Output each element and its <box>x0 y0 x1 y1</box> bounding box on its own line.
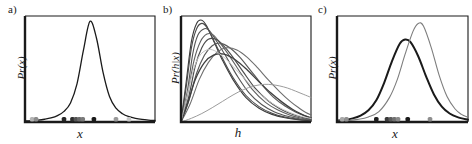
curve-posterior-broad <box>181 84 311 122</box>
panel-c-xlabel: x <box>375 126 415 142</box>
curve-posterior-7 <box>181 48 311 122</box>
curve-posterior-2 <box>181 23 311 122</box>
axis-frame-left-bottom <box>25 16 155 122</box>
data-point-marker <box>396 117 401 122</box>
panel-c-ylabel: Pr(x) <box>326 38 338 98</box>
data-point-marker <box>80 117 85 122</box>
panel-c-label: c) <box>318 4 327 15</box>
data-point-marker <box>340 117 345 122</box>
curve-predictive-dark <box>337 39 468 120</box>
panel-b-ylabel: Pr(h|x) <box>169 38 181 98</box>
panel-b-label: b) <box>163 4 172 15</box>
data-point-marker <box>405 117 410 122</box>
panel-a-xlabel: x <box>60 126 100 142</box>
data-point-marker <box>374 117 379 122</box>
data-point-marker <box>428 117 433 122</box>
data-point-marker <box>62 117 67 122</box>
data-point-marker <box>92 117 97 122</box>
curve-posterior-faint <box>181 49 311 122</box>
curve-predictive-gray <box>337 23 468 121</box>
curve-posterior-1 <box>181 20 311 122</box>
data-point-marker <box>34 117 39 122</box>
data-point-marker <box>114 117 119 122</box>
axis-frame-left-bottom <box>337 16 468 122</box>
panel-b-xlabel: h <box>218 125 258 141</box>
curve-marginal-density <box>25 21 155 121</box>
panel-a-label: a) <box>8 4 17 15</box>
figure-container: a) Pr(x) x b) Pr(h|x) h c) Pr(x) x <box>0 0 472 144</box>
axis-frame-top-right <box>25 16 155 122</box>
data-point-marker <box>344 117 349 122</box>
axis-frame-top-right <box>337 16 468 122</box>
data-point-marker <box>127 117 132 122</box>
panel-a-ylabel: Pr(x) <box>15 38 27 98</box>
